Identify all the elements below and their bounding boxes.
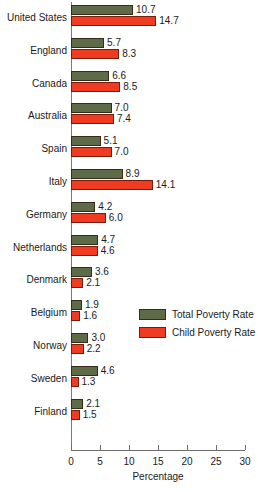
bar-value-label-child: 7.0 <box>115 146 129 157</box>
x-axis-tick-label: 10 <box>123 456 134 467</box>
bar-row: Canada6.68.5 <box>0 70 258 102</box>
bar-row: United States10.714.7 <box>0 4 258 36</box>
bar-child <box>71 278 83 288</box>
bar-value-label-total: 3.0 <box>91 332 105 343</box>
category-label: Netherlands <box>0 242 67 253</box>
bar-value-label-total: 4.2 <box>98 201 112 212</box>
bar-total <box>71 333 88 343</box>
value-axis-line: 051015202530 <box>71 450 245 451</box>
bar-child <box>71 311 80 321</box>
bar-child <box>71 16 156 26</box>
bar-value-label-child: 8.5 <box>123 81 137 92</box>
bar-total <box>71 267 92 277</box>
x-axis-tick <box>245 445 246 450</box>
category-label: Denmark <box>0 274 67 285</box>
x-axis-tick-label: 15 <box>152 456 163 467</box>
x-axis-tick <box>187 445 188 450</box>
bar-value-label-total: 4.6 <box>101 365 115 376</box>
category-label: Australia <box>0 110 67 121</box>
bar-child <box>71 114 114 124</box>
bar-row: Denmark3.62.1 <box>0 266 258 298</box>
x-axis-tick <box>129 445 130 450</box>
category-label: United States <box>0 12 67 23</box>
bar-total <box>71 300 82 310</box>
x-axis-tick <box>71 445 72 450</box>
category-label: England <box>0 45 67 56</box>
x-axis-tick-label: 0 <box>68 456 74 467</box>
category-label: Italy <box>0 176 67 187</box>
bar-child <box>71 213 106 223</box>
bar-value-label-total: 7.0 <box>115 102 129 113</box>
bar-row: Germany4.26.0 <box>0 201 258 233</box>
bar-row: England5.78.3 <box>0 37 258 69</box>
bar-total <box>71 169 123 179</box>
bar-value-label-child: 2.2 <box>87 343 101 354</box>
bar-value-label-total: 6.6 <box>112 70 126 81</box>
x-axis-tick <box>216 445 217 450</box>
poverty-rate-bar-chart: United States10.714.7England5.78.3Canada… <box>0 0 258 492</box>
bar-child <box>71 147 112 157</box>
bar-child <box>71 344 84 354</box>
bar-row: Netherlands4.74.6 <box>0 234 258 266</box>
category-label: Norway <box>0 340 67 351</box>
legend-label-total: Total Poverty Rate <box>172 309 254 320</box>
bar-child <box>71 180 153 190</box>
bar-value-label-child: 4.6 <box>101 245 115 256</box>
legend-swatch-total-icon <box>139 309 166 320</box>
bar-row: Finland2.11.5 <box>0 398 258 430</box>
bar-row: Sweden4.61.3 <box>0 365 258 397</box>
bar-child <box>71 246 98 256</box>
category-label: Sweden <box>0 373 67 384</box>
bar-child <box>71 410 80 420</box>
bar-total <box>71 71 109 81</box>
x-axis-tick-label: 20 <box>181 456 192 467</box>
bar-value-label-child: 1.6 <box>83 310 97 321</box>
bar-value-label-total: 5.1 <box>104 135 118 146</box>
chart-legend: Total Poverty Rate Child Poverty Rate <box>139 307 255 343</box>
legend-label-child: Child Poverty Rate <box>172 327 255 338</box>
legend-swatch-child-icon <box>139 327 166 338</box>
bar-row: Italy8.914.1 <box>0 168 258 200</box>
legend-item-total: Total Poverty Rate <box>139 307 255 322</box>
bar-value-label-child: 1.3 <box>82 376 96 387</box>
bar-value-label-child: 14.7 <box>159 15 178 26</box>
bar-total <box>71 399 83 409</box>
bar-child <box>71 49 119 59</box>
bar-value-label-total: 8.9 <box>126 168 140 179</box>
category-label: Canada <box>0 78 67 89</box>
bar-value-label-total: 2.1 <box>86 398 100 409</box>
bar-value-label-total: 1.9 <box>85 299 99 310</box>
bar-value-label-child: 7.4 <box>117 113 131 124</box>
bar-value-label-total: 3.6 <box>95 266 109 277</box>
bar-total <box>71 235 98 245</box>
x-axis-tick <box>100 445 101 450</box>
bar-value-label-child: 8.3 <box>122 48 136 59</box>
bar-value-label-child: 6.0 <box>109 212 123 223</box>
x-axis-tick-label: 30 <box>239 456 250 467</box>
bar-value-label-total: 10.7 <box>136 4 155 15</box>
bar-value-label-total: 5.7 <box>107 37 121 48</box>
category-label: Spain <box>0 143 67 154</box>
category-label: Finland <box>0 406 67 417</box>
x-axis-tick-label: 5 <box>97 456 103 467</box>
bar-value-label-child: 1.5 <box>83 409 97 420</box>
x-axis-tick-label: 25 <box>210 456 221 467</box>
bar-value-label-child: 2.1 <box>86 277 100 288</box>
bar-total <box>71 38 104 48</box>
x-axis-tick <box>158 445 159 450</box>
bar-total <box>71 136 101 146</box>
bar-total <box>71 5 133 15</box>
category-label: Belgium <box>0 307 67 318</box>
bar-row: Australia7.07.4 <box>0 102 258 134</box>
bar-total <box>71 202 95 212</box>
x-axis-title: Percentage <box>71 471 245 483</box>
bar-value-label-total: 4.7 <box>101 234 115 245</box>
bar-value-label-child: 14.1 <box>156 179 175 190</box>
bar-total <box>71 103 112 113</box>
bar-child <box>71 377 79 387</box>
bar-row: Spain5.17.0 <box>0 135 258 167</box>
bar-child <box>71 82 120 92</box>
legend-item-child: Child Poverty Rate <box>139 325 255 340</box>
category-label: Germany <box>0 209 67 220</box>
bar-total <box>71 366 98 376</box>
